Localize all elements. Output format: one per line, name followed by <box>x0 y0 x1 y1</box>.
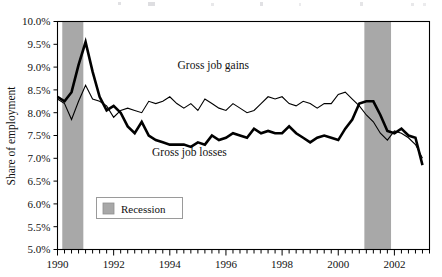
y-axis-tick-label: 9.5% <box>28 38 51 50</box>
y-axis-tick-label: 9.0% <box>28 61 51 73</box>
gross-job-losses-label: Gross job losses <box>152 146 227 159</box>
recession-2001 <box>364 22 391 250</box>
x-axis-tick-label: 1992 <box>103 258 125 270</box>
y-axis-tick-label: 8.5% <box>28 84 51 96</box>
y-axis-ticks-group <box>54 22 58 250</box>
x-axis-ticks-group <box>58 250 430 256</box>
x-axis-tick-label: 1994 <box>159 258 182 270</box>
legend-label-recession: Recession <box>121 203 166 215</box>
y-axis-tick-label: 10.0% <box>22 15 50 27</box>
x-axis-tick-label: 1998 <box>271 258 294 270</box>
y-axis-tick-label: 5.5% <box>28 221 51 233</box>
y-axis-tick-labels-group: 10.0%9.5%9.0%8.5%8.0%7.5%7.0%6.5%6.0%5.5… <box>22 15 50 255</box>
gross-job-gains-label: Gross job gains <box>178 59 250 72</box>
chart-container: 10.0%9.5%9.0%8.5%8.0%7.5%7.0%6.5%6.0%5.5… <box>0 0 442 277</box>
line-chart: 10.0%9.5%9.0%8.5%8.0%7.5%7.0%6.5%6.0%5.5… <box>0 0 442 277</box>
y-axis-tick-label: 5.0% <box>28 243 51 255</box>
y-axis-title: Share of employment <box>5 86 18 186</box>
y-axis-tick-label: 6.5% <box>28 175 51 187</box>
y-axis-tick-label: 6.0% <box>28 198 51 210</box>
x-axis-tick-labels-group: 1990199219941996199820002002 <box>47 258 406 270</box>
y-axis-tick-label: 7.5% <box>28 129 51 141</box>
legend-swatch-recession <box>103 203 114 214</box>
chart-legend: Recession <box>97 198 183 219</box>
x-axis-tick-label: 2000 <box>327 258 350 270</box>
x-axis-tick-label: 2002 <box>383 258 405 270</box>
x-axis-tick-label: 1996 <box>215 258 238 270</box>
top-cropped-title-artifact <box>118 2 426 6</box>
y-axis-tick-label: 8.0% <box>28 107 51 119</box>
x-axis-tick-label: 1990 <box>47 258 70 270</box>
y-axis-tick-label: 7.0% <box>28 152 51 164</box>
